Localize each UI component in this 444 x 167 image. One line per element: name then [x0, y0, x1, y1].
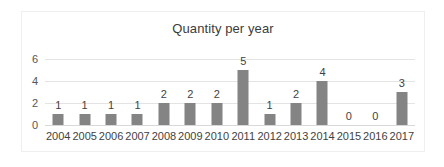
bar-group: 1 [256, 59, 282, 125]
x-axis-tick-label: 2013 [284, 131, 308, 142]
bar-group: 2 [151, 59, 177, 125]
x-axis-tick-label: 2015 [337, 131, 361, 142]
bar [132, 114, 143, 125]
x-axis-tick-label: 2016 [363, 131, 387, 142]
bar [158, 103, 169, 125]
bar-group: 1 [124, 59, 150, 125]
bar [185, 103, 196, 125]
bar-value-label: 5 [240, 56, 246, 67]
bar [106, 114, 117, 125]
bar-value-label: 2 [293, 89, 299, 100]
bar-group: 0 [362, 59, 388, 125]
x-axis-tick-label: 2005 [72, 131, 96, 142]
bar-value-label: 1 [108, 100, 114, 111]
bar-group: 1 [71, 59, 97, 125]
bar [238, 70, 249, 125]
y-axis-tick-label: 6 [32, 54, 38, 65]
x-axis-tick-label: 2011 [231, 131, 255, 142]
bar-group: 2 [283, 59, 309, 125]
y-axis-tick-label: 2 [32, 98, 38, 109]
bar [291, 103, 302, 125]
x-axis-tick-label: 2009 [178, 131, 202, 142]
bar [53, 114, 64, 125]
bar-series: 11112225124003 [45, 59, 415, 125]
bar [317, 81, 328, 125]
x-axis-tick-label: 2010 [205, 131, 229, 142]
bar-value-label: 1 [134, 100, 140, 111]
bar-value-label: 4 [319, 67, 325, 78]
bar [264, 114, 275, 125]
bar-value-label: 2 [187, 89, 193, 100]
bar-value-label: 1 [82, 100, 88, 111]
y-axis-tick-label: 4 [32, 76, 38, 87]
bar-group: 5 [230, 59, 256, 125]
bar [211, 103, 222, 125]
bar-value-label: 3 [399, 78, 405, 89]
bar-value-label: 1 [55, 100, 61, 111]
bar-value-label: 1 [267, 100, 273, 111]
bar [396, 92, 407, 125]
bar-value-label: 0 [372, 111, 378, 122]
chart-title: Quantity per year [22, 21, 424, 36]
bar-value-label: 0 [346, 111, 352, 122]
bar-group: 2 [177, 59, 203, 125]
bar-value-label: 2 [214, 89, 220, 100]
bar-value-label: 2 [161, 89, 167, 100]
x-axis-tick-label: 2004 [46, 131, 70, 142]
x-axis-ticks: 2004200520062007200820092010201120122013… [45, 125, 415, 145]
x-axis-tick-label: 2008 [152, 131, 176, 142]
bar-group: 2 [204, 59, 230, 125]
bar [79, 114, 90, 125]
bar-group: 3 [389, 59, 415, 125]
bar-group: 0 [336, 59, 362, 125]
bar-group: 4 [309, 59, 335, 125]
x-axis-tick-label: 2017 [390, 131, 414, 142]
x-axis-tick-label: 2006 [99, 131, 123, 142]
bar-group: 1 [98, 59, 124, 125]
y-axis-tick-label: 0 [32, 120, 38, 131]
chart-figure: Quantity per year 0246 11112225124003 20… [21, 11, 425, 152]
x-axis-tick-label: 2014 [310, 131, 334, 142]
x-axis-tick-label: 2012 [257, 131, 281, 142]
plot-area: 0246 11112225124003 20042005200620072008… [45, 59, 415, 125]
bar-group: 1 [45, 59, 71, 125]
x-axis-tick-label: 2007 [125, 131, 149, 142]
